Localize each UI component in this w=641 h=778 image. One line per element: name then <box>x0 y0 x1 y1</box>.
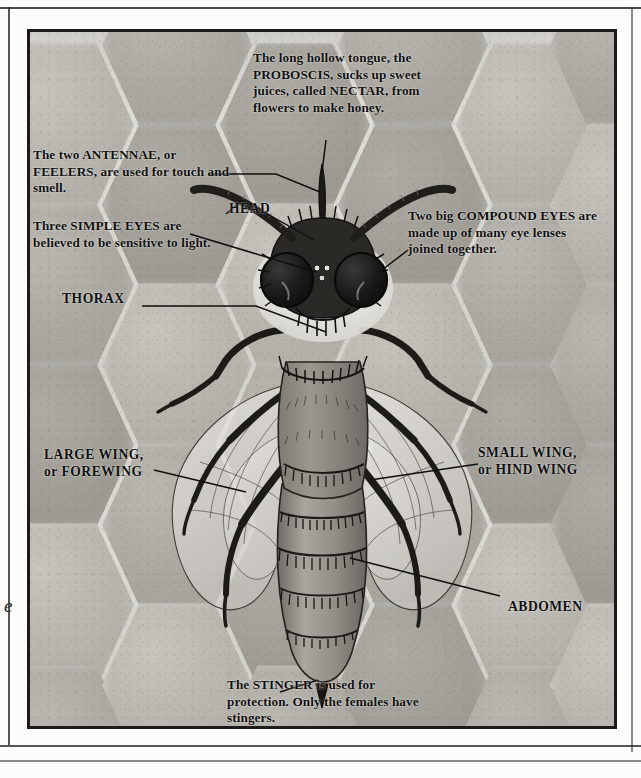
callout-stinger: The STINGER is used for protection. Only… <box>227 677 423 726</box>
callout-simple-eyes: Three SIMPLE EYES are believed to be sen… <box>33 218 229 251</box>
compound-eye-right <box>335 253 387 307</box>
term-small-wing-line1: SMALL WING, <box>478 444 578 461</box>
simple-eye-3 <box>319 275 325 281</box>
bee-illustration <box>30 32 614 726</box>
term-small-wing-line2: or HIND WING <box>478 461 578 478</box>
leader-proboscis <box>322 140 326 172</box>
simple-eye-2 <box>324 265 330 271</box>
callout-antennae: The two ANTENNAE, or FEELERS, are used f… <box>33 147 233 197</box>
term-large-wing-line1: LARGE WING, <box>44 446 144 463</box>
compound-eye-left <box>261 253 313 307</box>
page-rule-top <box>0 7 641 9</box>
thorax-group <box>278 356 368 499</box>
term-small-wing: SMALL WING, or HIND WING <box>478 444 578 478</box>
callout-compound-eyes: Two big COMPOUND EYES are made up of man… <box>408 208 598 258</box>
page-rule-right <box>631 7 633 752</box>
page-rule-bottom-second <box>0 760 641 762</box>
term-thorax: THORAX <box>62 290 125 307</box>
term-large-wing-line2: or FOREWING <box>44 463 144 480</box>
illustration-frame: The long hollow tongue, the PROBOSCIS, s… <box>27 29 617 729</box>
callout-proboscis: The long hollow tongue, the PROBOSCIS, s… <box>253 50 443 117</box>
illustration-canvas: The long hollow tongue, the PROBOSCIS, s… <box>30 32 614 726</box>
simple-eye-1 <box>314 265 320 271</box>
marginal-letter: e <box>4 595 12 617</box>
page-rule-bottom <box>0 745 641 747</box>
leader-compound-eyes <box>382 250 408 270</box>
scanned-page: e <box>0 0 641 778</box>
proboscis <box>319 164 325 218</box>
term-abdomen: ABDOMEN <box>508 598 583 615</box>
term-head: HEAD <box>229 200 270 217</box>
page-rule-left <box>8 7 10 745</box>
term-large-wing: LARGE WING, or FOREWING <box>44 446 144 480</box>
abdomen-group <box>277 484 366 708</box>
